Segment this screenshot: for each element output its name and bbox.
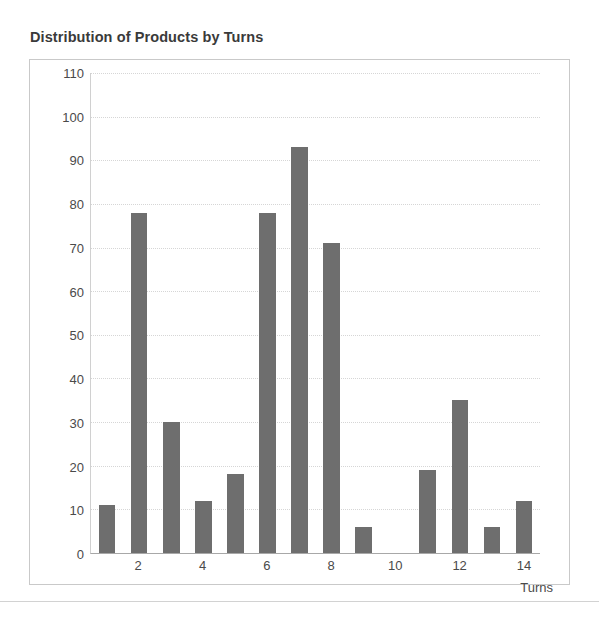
x-axis-tick-label: 12: [444, 555, 476, 577]
bar[interactable]: [195, 501, 212, 553]
y-axis-tick-label: 100: [32, 109, 84, 124]
bar-slot: [283, 73, 315, 553]
y-axis-tick-label: 30: [32, 415, 84, 430]
bar[interactable]: [516, 501, 533, 553]
bar-slot: [123, 73, 155, 553]
plot-area: [90, 73, 540, 554]
bar-slot: [380, 73, 412, 553]
y-axis-tick-label: 10: [32, 503, 84, 518]
x-axis-title: Turns: [520, 580, 553, 595]
x-axis-tick-label: [411, 555, 443, 577]
x-axis-tick-label: [283, 555, 315, 577]
x-axis-tick-label: 6: [251, 555, 283, 577]
y-axis-tick-labels: 1101009080706050403020100: [30, 73, 84, 554]
x-axis-tick-label: [476, 555, 508, 577]
bar[interactable]: [291, 147, 308, 553]
y-axis-tick-label: 90: [32, 153, 84, 168]
x-axis-tick-label: 10: [379, 555, 411, 577]
chart-title: Distribution of Products by Turns: [30, 29, 263, 45]
x-axis-tick-labels: 2468101214: [90, 555, 540, 577]
bar-slot: [155, 73, 187, 553]
chart-figure: Distribution of Products by Turns 110100…: [0, 0, 599, 619]
x-axis-tick-label: [347, 555, 379, 577]
bar[interactable]: [131, 213, 148, 553]
x-axis-tick-label: 4: [186, 555, 218, 577]
bar-slot: [316, 73, 348, 553]
x-axis-tick-label: [154, 555, 186, 577]
bottom-divider: [0, 601, 599, 602]
bar-slot: [476, 73, 508, 553]
bar[interactable]: [484, 527, 501, 553]
bar-slot: [444, 73, 476, 553]
y-axis-tick-label: 70: [32, 240, 84, 255]
x-axis-tick-label: [219, 555, 251, 577]
y-axis-tick-label: 40: [32, 372, 84, 387]
bar[interactable]: [323, 243, 340, 553]
bar[interactable]: [355, 527, 372, 553]
bar-slot: [187, 73, 219, 553]
bar-slot: [412, 73, 444, 553]
chart-plot-frame: 1101009080706050403020100 2468101214 Tur…: [29, 59, 570, 585]
y-axis-tick-label: 0: [32, 547, 84, 562]
bar-slot: [219, 73, 251, 553]
bar-slot: [348, 73, 380, 553]
bar[interactable]: [452, 400, 469, 553]
bar-series: [91, 73, 540, 553]
x-axis-tick-label: 8: [315, 555, 347, 577]
bar-slot: [251, 73, 283, 553]
bar[interactable]: [163, 422, 180, 553]
y-axis-tick-label: 60: [32, 284, 84, 299]
bar[interactable]: [227, 474, 244, 553]
bar-slot: [508, 73, 540, 553]
bar[interactable]: [259, 213, 276, 553]
y-axis-tick-label: 20: [32, 459, 84, 474]
x-axis-tick-label: 14: [508, 555, 540, 577]
y-axis-tick-label: 50: [32, 328, 84, 343]
y-axis-tick-label: 110: [32, 66, 84, 81]
y-axis-tick-label: 80: [32, 197, 84, 212]
x-axis-tick-label: 2: [122, 555, 154, 577]
bar[interactable]: [99, 505, 116, 553]
bar[interactable]: [419, 470, 436, 553]
x-axis-tick-label: [90, 555, 122, 577]
bar-slot: [91, 73, 123, 553]
